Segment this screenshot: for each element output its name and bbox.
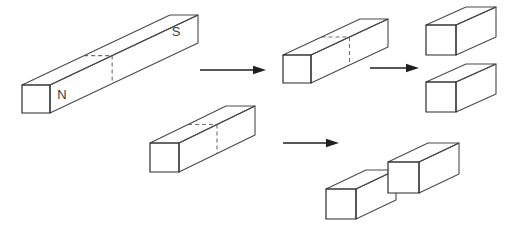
upper-half-bar-magnet-group (283, 19, 388, 83)
small-magnet-cube-bottom-right-group (388, 143, 459, 193)
arrow-second-division-lower-group (283, 139, 339, 147)
lower-half-bar-magnet-body-fill (150, 106, 255, 172)
small-magnet-cube-bottom-left-group (326, 170, 396, 219)
arrow-first-division-head (253, 66, 266, 74)
small-magnet-cube-top-upper-group (426, 7, 496, 55)
small-magnet-cube-bottom-right-body-fill (388, 143, 459, 193)
lower-half-bar-magnet-group (150, 106, 255, 172)
small-magnet-cube-top-upper-body-fill (426, 7, 496, 55)
upper-half-bar-magnet-body-fill (283, 19, 388, 83)
magnet-objects-layer (22, 7, 496, 219)
small-magnet-cube-bottom-left-body-fill (326, 170, 396, 219)
small-magnet-cube-top-lower-body-fill (426, 64, 496, 112)
arrow-second-division-upper-head (406, 64, 419, 72)
south-pole-label: S (172, 24, 181, 39)
arrow-second-division-upper-group (370, 64, 419, 72)
north-pole-label: N (57, 87, 66, 102)
arrow-first-division-group (200, 66, 266, 74)
diagram-canvas: NS (0, 0, 515, 227)
magnet-division-diagram: NS (0, 0, 515, 227)
arrow-second-division-lower-head (326, 139, 339, 147)
small-magnet-cube-top-lower-group (426, 64, 496, 112)
